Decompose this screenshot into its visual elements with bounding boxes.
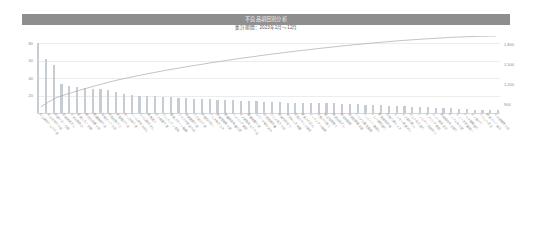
chart-subtitle: 集計期間：2023年1月～12月 bbox=[22, 25, 510, 31]
cumulative-line-series bbox=[37, 36, 500, 113]
y-axis-left-tick: 60 bbox=[16, 58, 33, 63]
y-axis-right-tick: 900 bbox=[504, 102, 530, 107]
plot-area bbox=[37, 36, 500, 113]
y-axis-left-tick: 80 bbox=[16, 41, 33, 46]
y-axis-right-tick: 1,500 bbox=[504, 62, 530, 67]
chart-header-band: 不良品項目別分析 bbox=[22, 14, 510, 25]
y-axis-right-tick: 1,800 bbox=[504, 42, 530, 47]
cumulative-line bbox=[41, 36, 496, 107]
page-title: 不良品項目別分析 bbox=[22, 14, 510, 25]
y-axis-right-tick: 1,200 bbox=[504, 82, 530, 87]
y-axis-left-tick: 40 bbox=[16, 76, 33, 81]
x-axis-labels: ねじ締付トルク不足はんだ付け不良外観キズ・打痕部品実装ズレ寸法公差外れ塗装ムラ・… bbox=[37, 113, 500, 208]
chart-card: 不良品項目別分析 集計期間：2023年1月～12月 ねじ締付トルク不足はんだ付け… bbox=[0, 0, 534, 225]
y-axis-left-tick: 20 bbox=[16, 93, 33, 98]
